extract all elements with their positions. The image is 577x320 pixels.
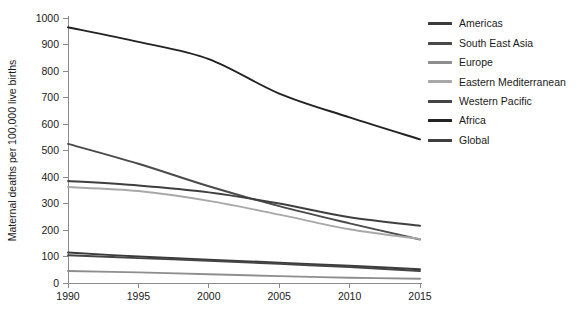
legend-label: Eastern Mediterranean <box>459 77 566 88</box>
legend-item-americas[interactable]: Americas <box>428 14 576 33</box>
legend-label: Western Pacific <box>459 96 532 107</box>
legend-swatch-icon <box>428 139 452 142</box>
legend-label: Global <box>459 135 489 146</box>
legend-item-eastern-mediterranean[interactable]: Eastern Mediterranean <box>428 72 576 91</box>
legend-swatch-icon <box>428 22 452 25</box>
y-tick-label: 1000 <box>36 12 60 24</box>
y-tick-label: 200 <box>41 224 59 236</box>
series-line-americas <box>68 253 420 270</box>
series-lines <box>68 27 420 278</box>
y-tick-label: 700 <box>41 91 59 103</box>
legend-item-global[interactable]: Global <box>428 130 576 149</box>
legend-swatch-icon <box>428 42 452 45</box>
y-tick-label: 300 <box>41 197 59 209</box>
x-axis: 199019952000200520102015 <box>56 283 432 302</box>
legend-label: Africa <box>459 115 486 126</box>
legend-label: South East Asia <box>459 38 533 49</box>
legend-swatch-icon <box>428 100 452 103</box>
legend-item-western-pacific[interactable]: Western Pacific <box>428 92 576 111</box>
legend-swatch-icon <box>428 119 452 122</box>
legend-swatch-icon <box>428 80 452 83</box>
legend-label: Europe <box>459 57 493 68</box>
legend-swatch-icon <box>428 61 452 64</box>
y-tick-label: 500 <box>41 144 59 156</box>
series-line-eastern-mediterranean <box>68 187 420 239</box>
legend-item-africa[interactable]: Africa <box>428 111 576 130</box>
x-tick-label: 1990 <box>56 290 80 302</box>
x-tick-label: 2000 <box>197 290 221 302</box>
chart-figure: 01002003004005006007008009001000 1990199… <box>0 0 577 320</box>
series-line-europe <box>68 271 420 279</box>
series-line-western-pacific <box>68 255 420 271</box>
x-tick-label: 2005 <box>268 290 292 302</box>
y-axis: 01002003004005006007008009001000 <box>36 12 68 289</box>
legend-label: Americas <box>459 18 503 29</box>
y-tick-label: 0 <box>53 277 59 289</box>
x-tick-label: 2015 <box>408 290 432 302</box>
series-line-africa <box>68 27 420 139</box>
y-tick-label: 800 <box>41 65 59 77</box>
y-tick-label: 100 <box>41 250 59 262</box>
chart-legend: AmericasSouth East AsiaEuropeEastern Med… <box>428 14 576 150</box>
y-tick-label: 600 <box>41 118 59 130</box>
series-line-global <box>68 181 420 226</box>
legend-item-europe[interactable]: Europe <box>428 53 576 72</box>
x-tick-label: 2010 <box>338 290 362 302</box>
x-tick-label: 1995 <box>127 290 151 302</box>
legend-item-south-east-asia[interactable]: South East Asia <box>428 33 576 52</box>
y-tick-label: 400 <box>41 171 59 183</box>
y-tick-label: 900 <box>41 38 59 50</box>
series-line-south-east-asia <box>68 144 420 240</box>
y-axis-title: Maternal deaths per 100,000 live births <box>6 60 18 242</box>
